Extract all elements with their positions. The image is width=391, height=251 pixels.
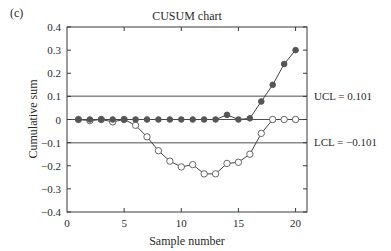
data-point-open — [235, 159, 241, 165]
x-tick-label: 0 — [64, 217, 70, 229]
x-tick-label: 15 — [233, 217, 245, 229]
x-tick-label: 20 — [290, 217, 302, 229]
data-point-filled — [133, 117, 139, 123]
panel-label: (c) — [10, 6, 23, 20]
ucl-label: UCL = 0.101 — [314, 90, 372, 102]
data-point-open — [292, 116, 298, 122]
y-tick-label: 0.2 — [47, 67, 61, 79]
data-point-filled — [247, 116, 253, 122]
data-point-filled — [258, 99, 264, 105]
y-tick-label: −0.4 — [41, 206, 61, 218]
chart-title: CUSUM chart — [152, 9, 222, 23]
data-point-filled — [121, 117, 127, 123]
data-point-filled — [167, 117, 173, 123]
series-lower-cusum — [75, 116, 299, 177]
data-point-open — [212, 171, 218, 177]
x-axis-label: Sample number — [149, 234, 225, 248]
data-point-filled — [156, 117, 162, 123]
data-point-open — [247, 151, 253, 157]
series-line — [78, 120, 295, 174]
data-point-filled — [144, 117, 150, 123]
y-tick-label: 0 — [56, 114, 62, 126]
x-tick-label: 5 — [121, 217, 127, 229]
data-point-filled — [98, 117, 104, 123]
data-point-filled — [270, 82, 276, 88]
y-tick-label: −0.3 — [41, 183, 61, 195]
y-tick-label: −0.1 — [41, 137, 61, 149]
y-axis-label: Cumulative sum — [26, 79, 40, 159]
y-tick-label: 0.3 — [47, 44, 61, 56]
data-point-open — [224, 160, 230, 166]
data-point-open — [190, 161, 196, 167]
series-upper-cusum — [76, 47, 299, 122]
series-line — [78, 50, 295, 119]
data-point-filled — [236, 117, 242, 123]
data-point-filled — [224, 112, 230, 118]
data-point-filled — [178, 117, 184, 123]
y-tick-label: 0.1 — [47, 90, 61, 102]
y-tick-label: −0.2 — [41, 160, 61, 172]
data-point-open — [167, 158, 173, 164]
data-point-open — [201, 171, 207, 177]
cusum-chart: (c) CUSUM chart 0.40.30.20.10−0.1−0.2−0.… — [0, 0, 391, 251]
data-point-open — [281, 116, 287, 122]
lcl-label: LCL = −0.101 — [314, 136, 377, 148]
data-point-open — [155, 148, 161, 154]
data-point-open — [270, 116, 276, 122]
data-point-filled — [76, 117, 82, 123]
y-tick-label: 0.4 — [47, 21, 61, 33]
data-point-filled — [281, 61, 287, 67]
data-point-filled — [293, 47, 299, 53]
data-point-open — [258, 130, 264, 136]
data-point-open — [178, 164, 184, 170]
data-point-filled — [87, 117, 93, 123]
data-point-filled — [201, 117, 207, 123]
data-point-filled — [110, 117, 116, 123]
x-tick-label: 10 — [176, 217, 188, 229]
data-point-open — [132, 122, 138, 128]
data-point-filled — [213, 117, 219, 123]
data-point-filled — [190, 117, 196, 123]
data-point-open — [144, 134, 150, 140]
data-series — [75, 47, 299, 177]
